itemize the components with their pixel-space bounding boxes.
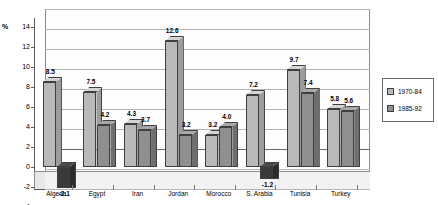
plot-area: 14121086420-2-4 % 8.5-2.17.54.24.33.712.… xyxy=(0,0,378,205)
y-axis-tick-mark xyxy=(31,27,35,28)
bar-side xyxy=(314,88,320,167)
bar xyxy=(341,111,354,167)
legend-label: 1970-84 xyxy=(398,88,422,95)
gridline xyxy=(45,169,370,170)
bar-face xyxy=(83,92,96,167)
y-axis-tick-label: 4 xyxy=(6,123,30,131)
x-axis-tick-mark xyxy=(357,185,358,190)
y-axis-tick-label: 14 xyxy=(6,23,30,31)
y-axis-tick-label: 0 xyxy=(6,163,30,171)
y-axis-tick-mark xyxy=(31,167,35,168)
bar-face xyxy=(97,125,110,167)
bar-face xyxy=(260,167,273,179)
y-axis-tick-label: -2 xyxy=(6,183,30,191)
y-axis-line xyxy=(34,18,35,189)
bar xyxy=(219,127,232,167)
bar-face xyxy=(219,127,232,167)
y-axis-tick-label: 12 xyxy=(6,43,30,51)
bar xyxy=(138,130,151,167)
y-axis-tick-mark xyxy=(31,127,35,128)
bar-face xyxy=(124,124,137,167)
gridline xyxy=(45,29,370,30)
bar-face xyxy=(301,93,314,167)
bar xyxy=(260,167,273,179)
plot-floor xyxy=(34,171,370,190)
gridline xyxy=(45,69,370,70)
bar-side xyxy=(192,130,198,167)
bar-value-label: 5.6 xyxy=(337,97,360,105)
bar-face xyxy=(165,41,178,167)
axis-depth-riser xyxy=(34,171,46,189)
y-axis-tick-label: 10 xyxy=(6,63,30,71)
bar-face xyxy=(205,135,218,167)
legend-swatch-icon xyxy=(387,105,394,112)
bar xyxy=(165,41,178,167)
bar-face xyxy=(341,111,354,167)
bar xyxy=(301,93,314,167)
y-axis-tick-label: -4 xyxy=(6,203,30,205)
bar-face xyxy=(179,135,192,167)
x-axis-tick-label: Turkey xyxy=(317,190,365,198)
bar xyxy=(43,82,56,167)
y-axis-tick-mark xyxy=(31,67,35,68)
bar xyxy=(205,135,218,167)
bar-side xyxy=(354,106,360,167)
bar-value-label: 3.2 xyxy=(175,121,198,129)
bar-value-label: 9.7 xyxy=(283,56,306,64)
bar xyxy=(124,124,137,167)
y-axis-tick-mark xyxy=(31,187,35,188)
bar-face xyxy=(327,109,340,167)
gridline xyxy=(45,9,370,10)
bar-value-label: 3.7 xyxy=(134,116,157,124)
y-axis-unit-label: % xyxy=(2,23,8,30)
bar xyxy=(57,167,70,188)
bar-value-label: 7.4 xyxy=(297,79,320,87)
y-axis-tick-label: 8 xyxy=(6,83,30,91)
bar-face xyxy=(57,167,70,188)
legend-swatch-icon xyxy=(387,88,394,95)
legend-label: 1985-92 xyxy=(398,105,422,112)
bar-side xyxy=(110,120,116,167)
bar xyxy=(327,109,340,167)
y-axis-tick-label: 6 xyxy=(6,103,30,111)
bar xyxy=(179,135,192,167)
bar-value-label: 4.2 xyxy=(93,111,116,119)
bar-chart: 14121086420-2-4 % 8.5-2.17.54.24.33.712.… xyxy=(0,0,438,205)
bar-face xyxy=(246,95,259,167)
y-axis-tick-label: 2 xyxy=(6,143,30,151)
legend-item-1985-92[interactable]: 1985-92 xyxy=(387,103,422,114)
y-axis-tick-mark xyxy=(31,107,35,108)
bar-face xyxy=(138,130,151,167)
legend-item-1970-84[interactable]: 1970-84 xyxy=(387,86,422,97)
bar xyxy=(246,95,259,167)
bar xyxy=(97,125,110,167)
bar-face xyxy=(43,82,56,167)
bar xyxy=(83,92,96,167)
y-axis-tick-mark xyxy=(31,147,35,148)
bar-side xyxy=(259,90,265,167)
bar-value-label: 12.6 xyxy=(161,27,184,35)
y-axis-tick-mark xyxy=(31,47,35,48)
bar-side xyxy=(151,125,157,167)
bar-side xyxy=(56,77,62,167)
bar-side xyxy=(232,122,238,167)
bar-value-label: 7.5 xyxy=(79,78,102,86)
y-axis-tick-mark xyxy=(31,87,35,88)
bar-value-label: 8.5 xyxy=(39,68,62,76)
gridline xyxy=(45,49,370,50)
bar-value-label: 4.0 xyxy=(215,113,238,121)
bar-value-label: 7.2 xyxy=(242,81,265,89)
legend: 1970-84 1985-92 xyxy=(382,78,434,122)
